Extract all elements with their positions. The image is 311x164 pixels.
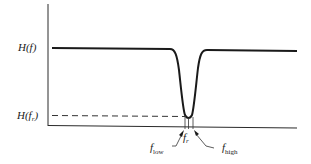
f-low-label: flow <box>150 141 165 156</box>
f-r-label: fr <box>183 131 189 145</box>
notch-level-dashed-line <box>52 116 186 117</box>
passband-label: H(f) <box>17 41 37 54</box>
f-high-arrowhead <box>194 130 199 136</box>
notch-filter-diagram: H(f) H(fr) fr flow fhigh <box>0 0 311 164</box>
frequency-response-curve <box>52 48 297 118</box>
f-high-label: fhigh <box>222 141 238 156</box>
f-high-leader-line <box>196 134 214 148</box>
notch-level-label: H(fr) <box>16 109 38 123</box>
x-axis <box>48 126 297 129</box>
